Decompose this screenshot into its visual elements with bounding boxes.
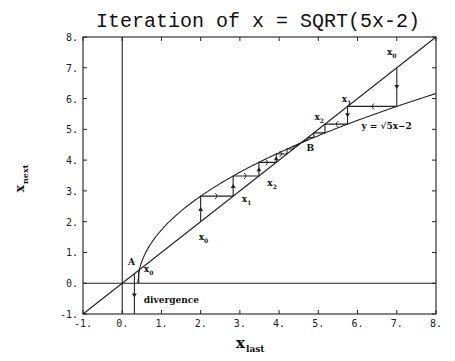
plot-area bbox=[83, 37, 436, 314]
arrow-icon bbox=[132, 294, 137, 298]
x-tick-label: 6. bbox=[352, 318, 364, 329]
arrow-icon bbox=[256, 167, 261, 171]
x-tick-label: 1. bbox=[155, 318, 167, 329]
arrow-icon bbox=[394, 85, 399, 89]
y-tick-label: 4. bbox=[66, 155, 78, 166]
x-axis-label-sub: last bbox=[246, 344, 265, 354]
x0-upper-label: x0 bbox=[387, 47, 397, 59]
divergence-label: divergence bbox=[144, 295, 199, 305]
x-tick-label: 7. bbox=[391, 318, 403, 329]
x-axis-label: x bbox=[236, 334, 246, 352]
svg-text:x: x bbox=[13, 184, 27, 192]
y-tick-label: 0. bbox=[66, 278, 78, 289]
y-tick-label: 1. bbox=[66, 247, 78, 258]
annotations: ABx0x1x2x0x1x2x0divergencey = √5x−2 bbox=[127, 47, 412, 305]
x-tick-label: 2. bbox=[195, 318, 207, 329]
curve-label: y = √5x−2 bbox=[360, 121, 411, 131]
x2-upper-label: x2 bbox=[314, 112, 324, 124]
x-tick-label: 8. bbox=[430, 318, 442, 329]
y-tick-label: 2. bbox=[66, 217, 78, 228]
x-tick-label: 0. bbox=[116, 318, 128, 329]
y-tick-label: 8. bbox=[66, 32, 78, 43]
arrow-icon bbox=[198, 207, 203, 211]
y-axis-label: x next bbox=[13, 164, 30, 192]
arrow-icon bbox=[274, 156, 279, 160]
identity-line bbox=[83, 37, 436, 314]
arrow-icon bbox=[345, 113, 350, 117]
point-b-label: B bbox=[307, 143, 315, 153]
y-tick-label: 7. bbox=[66, 63, 78, 74]
x2-lower-label: x2 bbox=[267, 178, 277, 190]
x-tick-label: 3. bbox=[234, 318, 246, 329]
x0-divergence-label: x0 bbox=[144, 264, 154, 276]
point-a-label: A bbox=[127, 257, 136, 267]
y-tick-label: 5. bbox=[66, 124, 78, 135]
chart-title: Iteration of x = SQRT(5x-2) bbox=[96, 10, 420, 33]
x-tick-label: 5. bbox=[312, 318, 324, 329]
x1-lower-label: x1 bbox=[242, 194, 252, 206]
x1-upper-label: x1 bbox=[342, 94, 352, 106]
y-tick-label: -1. bbox=[60, 309, 78, 320]
y-tick-label: 6. bbox=[66, 94, 78, 105]
chart: Iteration of x = SQRT(5x-2) -1.0.1.2.3.4… bbox=[0, 0, 455, 361]
y-tick-label: 3. bbox=[66, 186, 78, 197]
x-tick-label: 4. bbox=[273, 318, 285, 329]
x0-lower-label: x0 bbox=[199, 232, 209, 244]
svg-text:next: next bbox=[20, 164, 30, 184]
arrow-icon bbox=[231, 184, 236, 188]
